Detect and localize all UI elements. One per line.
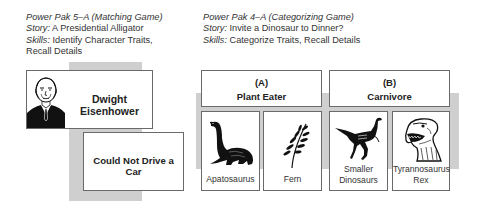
card-label-rex: Rex xyxy=(393,175,449,186)
category-header-plant-eater[interactable]: (A) Plant Eater xyxy=(201,70,322,107)
card-label-fern: Fern xyxy=(264,174,321,185)
fern-icon xyxy=(276,120,312,170)
card-could-not-drive-a-car[interactable]: Could Not Drive a Car xyxy=(83,132,184,191)
eisenhower-portrait-icon xyxy=(27,71,65,128)
category-letter-b: (B) xyxy=(330,77,449,88)
right-game-description: Power Pak 4–A (Categorizing Game) Story:… xyxy=(203,12,360,46)
right-story-label: Story: xyxy=(203,23,227,33)
right-skills-label: Skills: xyxy=(203,35,227,45)
small-dinosaur-icon xyxy=(333,116,387,162)
category-name-plant-eater: Plant Eater xyxy=(202,91,321,102)
card-apatosaurus[interactable]: Apatosaurus xyxy=(201,111,260,191)
right-skills-value: Categorize Traits, Recall Details xyxy=(230,35,361,45)
card-dwight-eisenhower[interactable]: Dwight Eisenhower xyxy=(26,70,153,129)
category-header-carnivore[interactable]: (B) Carnivore xyxy=(329,70,450,107)
card-smaller-dinosaurs[interactable]: Smaller Dinosaurs xyxy=(329,111,388,191)
card-label-apatosaurus: Apatosaurus xyxy=(202,174,259,185)
card-label-tyrannosaurus: Tyrannosaurus xyxy=(393,164,449,175)
left-skills-value-1: Identify Character Traits, xyxy=(53,35,153,45)
card-label-smaller: Smaller xyxy=(330,164,387,175)
right-game-title: Power Pak 4–A (Categorizing Game) xyxy=(203,12,354,22)
card-label-dwight-eisenhower: Dwight Eisenhower xyxy=(67,93,152,117)
category-name-carnivore: Carnivore xyxy=(330,91,449,102)
card-label-could-not-drive-a-car: Could Not Drive a Car xyxy=(84,155,183,177)
category-letter-a: (A) xyxy=(202,77,321,88)
card-tyrannosaurus-rex[interactable]: Tyrannosaurus Rex xyxy=(392,111,450,191)
left-game-title: Power Pak 5–A (Matching Game) xyxy=(26,12,163,22)
left-story-value: A Presidential Alligator xyxy=(52,23,143,33)
trex-icon xyxy=(401,116,445,162)
card-label-dinosaurs: Dinosaurs xyxy=(330,175,387,186)
left-game-description: Power Pak 5–A (Matching Game) Story: A P… xyxy=(26,12,163,57)
left-skills-value-2: Recall Details xyxy=(26,46,82,56)
apatosaurus-icon xyxy=(205,120,257,170)
card-fern[interactable]: Fern xyxy=(263,111,322,191)
right-story-value: Invite a Dinosaur to Dinner? xyxy=(230,23,344,33)
left-skills-label: Skills: xyxy=(26,35,50,45)
left-story-label: Story: xyxy=(26,23,50,33)
